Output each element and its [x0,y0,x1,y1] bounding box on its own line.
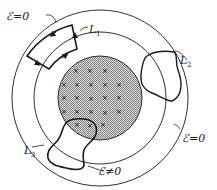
svg-text:×: × [87,67,93,75]
svg-text:×: × [88,108,94,116]
label-e-nonzero: ℰ≠0 [98,165,121,178]
svg-text:×: × [116,94,122,102]
label-L1-sub: 1 [96,30,100,38]
svg-text:×: × [87,122,93,130]
svg-text:×: × [74,81,80,89]
label-L3-sub: 3 [31,151,35,159]
svg-text:×: × [74,94,80,102]
label-e-zero-top: ℰ=0 [6,10,29,23]
label-L2-sub: 2 [187,61,191,69]
svg-text:×: × [73,67,79,75]
svg-text:×: × [61,94,67,102]
svg-text:×: × [116,81,122,89]
svg-text:×: × [116,108,122,116]
svg-text:×: × [88,81,94,89]
svg-text:×: × [74,108,80,116]
label-e-zero-right: ℰ=0 [182,132,205,145]
svg-text:×: × [74,121,80,129]
svg-text:×: × [61,81,67,89]
loop-L1 [27,25,77,69]
svg-text:×: × [102,81,108,89]
field-diagram: ××× ××××× ××××× ××××× ××× ℰ=0 L 1 L 2 ℰ=… [0,0,217,190]
svg-text:×: × [61,108,67,116]
svg-text:×: × [102,109,108,117]
svg-text:×: × [102,67,108,75]
svg-text:×: × [88,95,94,103]
svg-text:×: × [100,121,106,129]
svg-text:×: × [102,94,108,102]
loop-L2 [141,51,181,101]
